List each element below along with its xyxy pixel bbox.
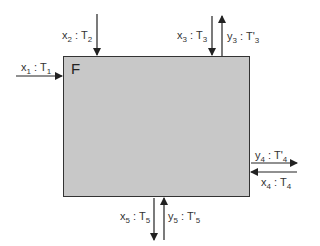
- label-y4: y4 : T'4: [255, 149, 287, 161]
- label-x4: x4 : T4: [261, 176, 291, 188]
- process-block: F: [63, 56, 250, 197]
- label-x3: x3 : T3: [177, 29, 207, 41]
- block-label: F: [71, 60, 80, 77]
- label-x5: x5 : T5: [120, 210, 150, 222]
- label-x2: x2 : T2: [62, 29, 92, 41]
- label-y3: y3 : T'3: [227, 30, 259, 42]
- label-y5: y5 : T'5: [168, 210, 200, 222]
- label-x1: x1 : T1: [21, 61, 51, 73]
